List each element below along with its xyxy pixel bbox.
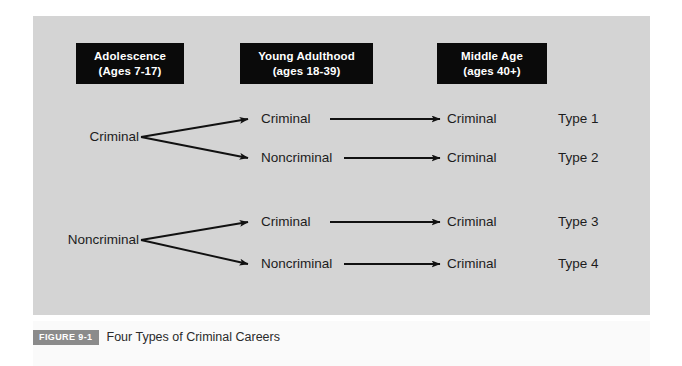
- branch-arrow-noncriminal-to-noncriminal: [141, 240, 248, 264]
- branch-arrow-criminal-to-noncriminal: [141, 137, 248, 158]
- middle-age-node-row-4: Criminal: [447, 256, 497, 272]
- branch-arrow-noncriminal-to-criminal: [141, 222, 248, 240]
- column-header-adolescence: Adolescence (Ages 7-17): [76, 43, 184, 84]
- figure-caption: FIGURE 9-1 Four Types of Criminal Career…: [33, 330, 280, 345]
- type-label-row-4: Type 4: [558, 256, 599, 272]
- young-adulthood-node-row-4: Noncriminal: [261, 256, 332, 272]
- type-label-row-3: Type 3: [558, 214, 599, 230]
- figure-caption-text: Four Types of Criminal Careers: [107, 330, 280, 345]
- source-node-criminal: Criminal: [71, 129, 139, 145]
- column-header-title: Adolescence: [94, 49, 166, 64]
- column-header-title: Young Adulthood: [258, 49, 355, 64]
- column-header-title: Middle Age: [461, 49, 523, 64]
- young-adulthood-node-row-2: Noncriminal: [261, 150, 332, 166]
- branch-arrow-criminal-to-criminal: [141, 119, 248, 137]
- column-header-subtitle: (Ages 7-17): [98, 64, 161, 79]
- middle-age-node-row-3: Criminal: [447, 214, 497, 230]
- young-adulthood-node-row-1: Criminal: [261, 111, 311, 127]
- column-header-subtitle: (ages 18-39): [273, 64, 341, 79]
- figure-panel: Adolescence (Ages 7-17) Young Adulthood …: [33, 16, 650, 315]
- young-adulthood-node-row-3: Criminal: [261, 214, 311, 230]
- source-node-noncriminal: Noncriminal: [51, 232, 139, 248]
- type-label-row-1: Type 1: [558, 111, 599, 127]
- figure-number-badge: FIGURE 9-1: [33, 330, 99, 345]
- middle-age-node-row-1: Criminal: [447, 111, 497, 127]
- column-header-middle-age: Middle Age (ages 40+): [437, 43, 547, 84]
- column-header-young-adulthood: Young Adulthood (ages 18-39): [240, 43, 373, 84]
- middle-age-node-row-2: Criminal: [447, 150, 497, 166]
- type-label-row-2: Type 2: [558, 150, 599, 166]
- column-header-subtitle: (ages 40+): [463, 64, 521, 79]
